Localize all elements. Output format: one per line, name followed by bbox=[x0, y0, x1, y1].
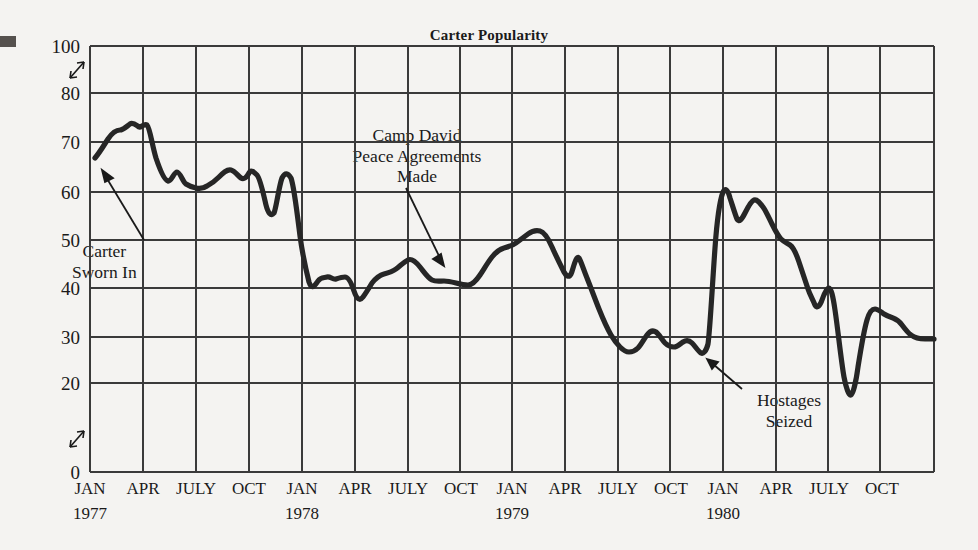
figure-container: Carter Popularity 100 80 70 60 50 40 30 … bbox=[0, 0, 978, 550]
arrow-line-camp-david bbox=[406, 188, 440, 258]
grid-lines bbox=[90, 46, 934, 472]
axis-break-marks bbox=[70, 62, 84, 447]
data-line-carter-approval bbox=[95, 123, 934, 395]
axis-break-lower-slash bbox=[70, 431, 84, 447]
arrow-head-carter-sworn-in bbox=[102, 170, 113, 182]
axis-break-upper-slash bbox=[70, 62, 84, 78]
arrow-head-camp-david bbox=[433, 254, 444, 266]
plot-area bbox=[0, 0, 978, 550]
arrow-line-carter-sworn-in bbox=[106, 177, 144, 240]
arrow-line-hostages-seized bbox=[713, 364, 742, 389]
annotation-arrows bbox=[102, 170, 742, 389]
